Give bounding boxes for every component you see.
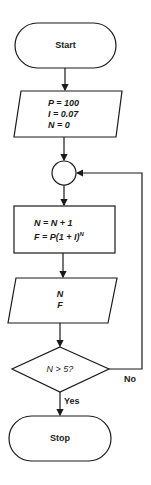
input-text: P = 100 I = 0.07 N = 0 bbox=[48, 98, 108, 131]
start-label: Start bbox=[15, 40, 116, 51]
no-label: No bbox=[120, 374, 140, 385]
connector-circle bbox=[52, 161, 76, 185]
process-line-f: F = P(1 + I)N bbox=[34, 229, 114, 243]
yes-label: Yes bbox=[64, 396, 88, 407]
decision-label: N > 5? bbox=[30, 364, 90, 375]
process-text: N = N + 1 F = P(1 + I)N bbox=[34, 218, 114, 243]
output-line-n: N bbox=[40, 289, 80, 300]
input-line-n: N = 0 bbox=[48, 120, 108, 131]
arrow-no-loop bbox=[77, 173, 142, 369]
input-line-p: P = 100 bbox=[48, 98, 108, 109]
input-line-i: I = 0.07 bbox=[48, 109, 108, 120]
output-text: N F bbox=[40, 289, 80, 311]
process-line-n: N = N + 1 bbox=[34, 218, 114, 229]
output-line-f: F bbox=[40, 300, 80, 311]
stop-label: Stop bbox=[9, 433, 111, 444]
